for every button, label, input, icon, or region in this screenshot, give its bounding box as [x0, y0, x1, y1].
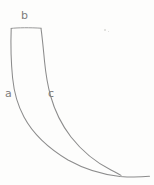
label-c: c: [48, 88, 54, 99]
label-b: b: [21, 10, 28, 21]
label-a: a: [5, 88, 12, 99]
diagram-canvas: a b c: [0, 0, 154, 185]
paper-speck: [108, 31, 109, 32]
left-curve-a-stroke: [11, 29, 150, 177]
paper-speck: [104, 29, 106, 31]
top-edge-b-stroke: [11, 28, 41, 29]
right-curve-c-stroke: [41, 28, 121, 175]
sketch-figure: [0, 0, 154, 185]
